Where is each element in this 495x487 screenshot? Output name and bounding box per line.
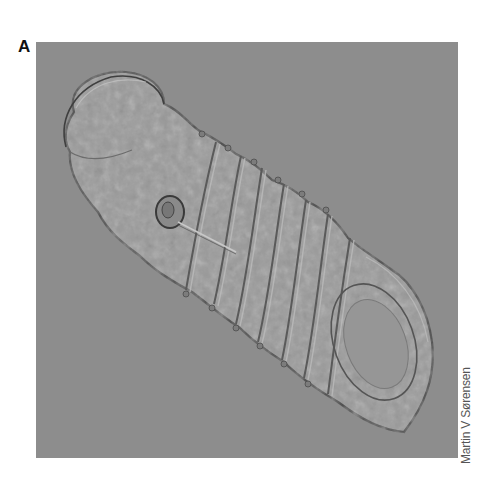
panel-label: A bbox=[18, 38, 30, 55]
photo-credit: Martin V Sørensen bbox=[460, 367, 472, 464]
micrograph-image bbox=[36, 42, 458, 458]
specimen-illustration bbox=[36, 42, 458, 458]
